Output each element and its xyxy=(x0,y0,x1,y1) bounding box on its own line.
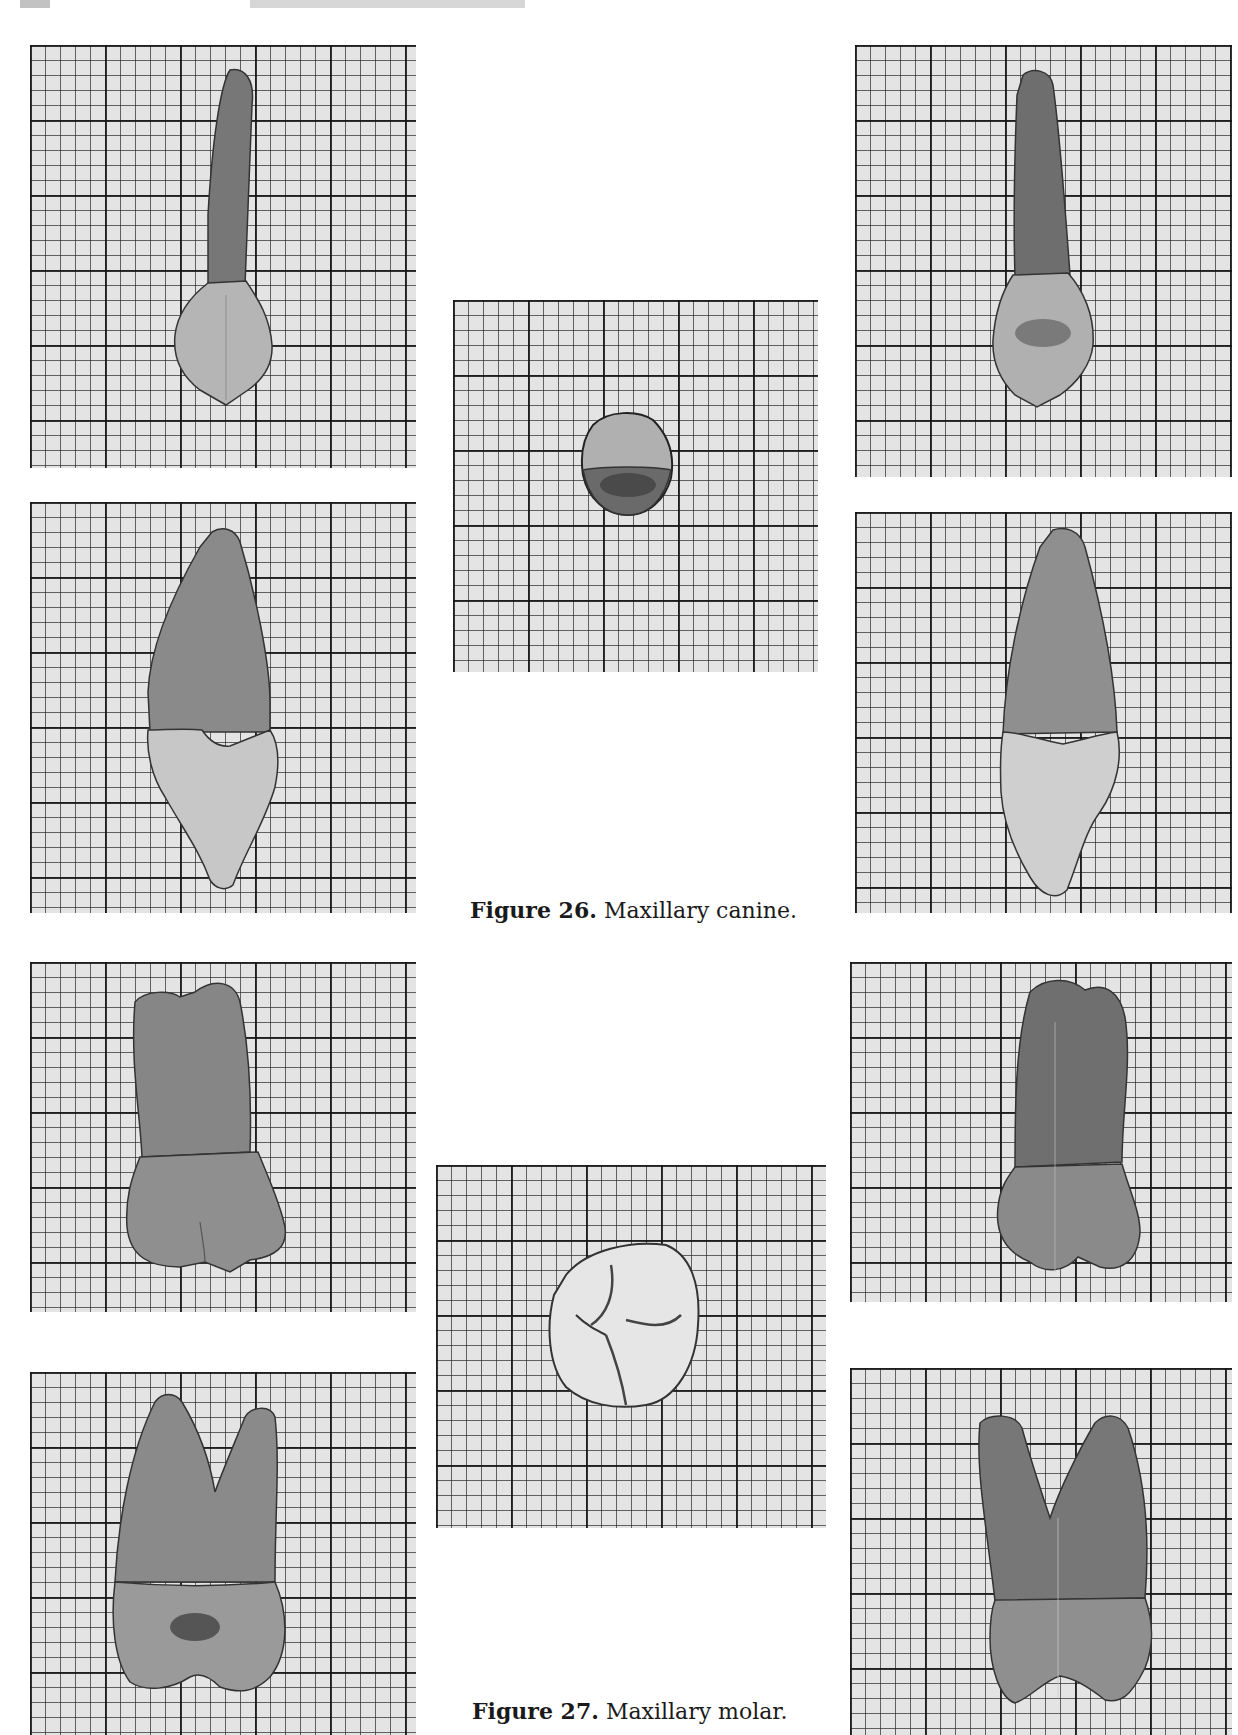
figure-27-number: Figure 27. xyxy=(472,1698,599,1724)
molar-distal-photo xyxy=(850,1368,1232,1735)
canine-distal-photo xyxy=(855,512,1232,913)
tooth-canine-labial-icon xyxy=(30,45,416,468)
tooth-canine-lingual-icon xyxy=(855,45,1232,477)
molar-lingual-photo xyxy=(850,962,1232,1302)
tooth-molar-lingual-icon xyxy=(850,962,1232,1302)
figure-26-caption: Figure 26. Maxillary canine. xyxy=(470,897,797,923)
tooth-molar-occlusal-icon xyxy=(436,1165,826,1528)
tooth-canine-incisal-icon xyxy=(453,300,818,672)
page-header-fragment xyxy=(20,0,1220,8)
tooth-molar-distal-icon xyxy=(850,1368,1232,1735)
canine-lingual-photo xyxy=(855,45,1232,477)
tooth-molar-buccal-icon xyxy=(30,962,416,1312)
canine-labial-photo xyxy=(30,45,416,468)
tooth-molar-mesial-icon xyxy=(30,1372,416,1735)
molar-occlusal-photo xyxy=(436,1165,826,1528)
tooth-canine-mesial-icon xyxy=(30,502,416,913)
figure-26-number: Figure 26. xyxy=(470,897,597,923)
figure-27-caption: Figure 27. Maxillary molar. xyxy=(472,1698,787,1724)
canine-incisal-photo xyxy=(453,300,818,672)
tooth-canine-distal-icon xyxy=(855,512,1232,913)
molar-buccal-photo xyxy=(30,962,416,1312)
figure-27-title: Maxillary molar. xyxy=(606,1699,788,1724)
canine-mesial-photo xyxy=(30,502,416,913)
molar-mesial-photo xyxy=(30,1372,416,1735)
figure-26-title: Maxillary canine. xyxy=(604,898,797,923)
